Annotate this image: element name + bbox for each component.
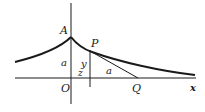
label-point-p: P bbox=[90, 37, 99, 50]
label-origin-o: O bbox=[61, 82, 70, 95]
tangent-line-pq bbox=[90, 51, 138, 78]
label-height-a: a bbox=[61, 57, 67, 68]
label-cusp-a: A bbox=[59, 24, 68, 37]
label-point-q: Q bbox=[132, 82, 141, 95]
label-tangent-a: a bbox=[106, 65, 112, 76]
label-x-axis: x bbox=[189, 82, 197, 93]
label-abscissa-z: z bbox=[77, 68, 83, 78]
tractrix-diagram: A P a y z a O Q x bbox=[0, 0, 205, 112]
